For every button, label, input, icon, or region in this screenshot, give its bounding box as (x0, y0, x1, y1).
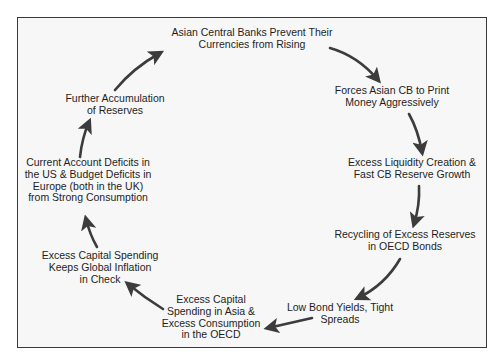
arrow-spending-to-inflation (128, 284, 163, 309)
node-line: Fast CB Reserve Growth (348, 169, 476, 181)
arrow-recycling-to-yields (358, 259, 400, 298)
arrow-accumulation-to-prevent (115, 53, 160, 90)
node-forces-print: Forces Asian CB to Print Money Aggressiv… (335, 85, 449, 109)
node-line: the US & Budget Deficits in (25, 169, 152, 181)
node-line: in OECD Bonds (334, 241, 475, 253)
node-recycling-reserves: Recycling of Excess Reserves in OECD Bon… (334, 229, 475, 253)
node-line: Currencies from Rising (172, 39, 333, 51)
node-line: in the OECD (162, 329, 261, 341)
node-line: in Check (42, 274, 159, 286)
node-line: Money Aggressively (335, 97, 449, 109)
node-excess-liquidity: Excess Liquidity Creation & Fast CB Rese… (348, 157, 476, 181)
node-low-yields: Low Bond Yields, Tight Spreads (287, 302, 393, 326)
node-excess-capex-consumption: Excess Capital Spending in Asia & Excess… (162, 294, 261, 341)
node-deficits: Current Account Deficits in the US & Bud… (25, 157, 152, 204)
arrow-deficits-to-accumulation (80, 122, 89, 157)
arrow-prevent-to-print (330, 48, 378, 80)
node-line: Spending in Asia & (162, 306, 261, 318)
node-line: of Reserves (65, 105, 164, 117)
arrow-liquidity-to-recycling (414, 186, 419, 224)
node-accumulation: Further Accumulation of Reserves (65, 93, 164, 117)
arrow-print-to-liquidity (409, 114, 422, 152)
node-inflation-check: Excess Capital Spending Keeps Global Inf… (42, 250, 159, 285)
node-line: from Strong Consumption (25, 192, 152, 204)
node-line: Keeps Global Inflation (42, 262, 159, 274)
node-line: Spreads (287, 314, 393, 326)
node-asian-cb-prevent: Asian Central Banks Prevent Their Curren… (172, 27, 333, 51)
arrow-inflation-to-deficits (86, 219, 97, 247)
